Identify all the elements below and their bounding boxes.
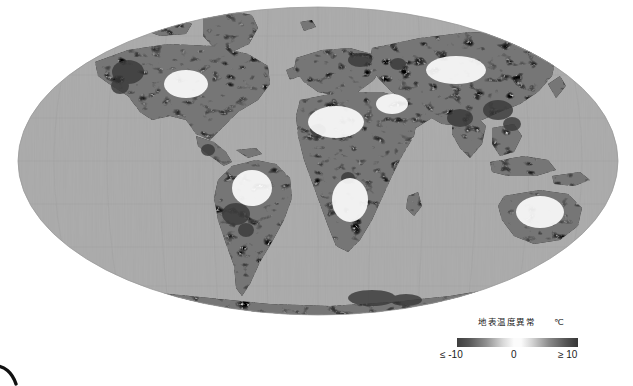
colorbar-tick-max: ≥ 10 — [558, 349, 577, 361]
legend-unit-label: ℃ — [554, 316, 564, 328]
legend-header: 地表温度異常 ℃ — [432, 316, 592, 332]
map-canvas — [0, 0, 633, 320]
colorbar-legend: 地表温度異常 ℃ ≤ -10 — [432, 316, 592, 362]
world-map — [0, 0, 633, 320]
colorbar-ticks: ≤ -10 0 ≥ 10 — [432, 349, 592, 363]
colorbar-tick-min: ≤ -10 — [440, 349, 463, 361]
colorbar-gradient — [457, 338, 578, 347]
legend-title: 地表温度異常 — [478, 316, 535, 328]
cropped-logo-mark — [0, 360, 24, 386]
colorbar-tick-mid: 0 — [511, 349, 517, 361]
